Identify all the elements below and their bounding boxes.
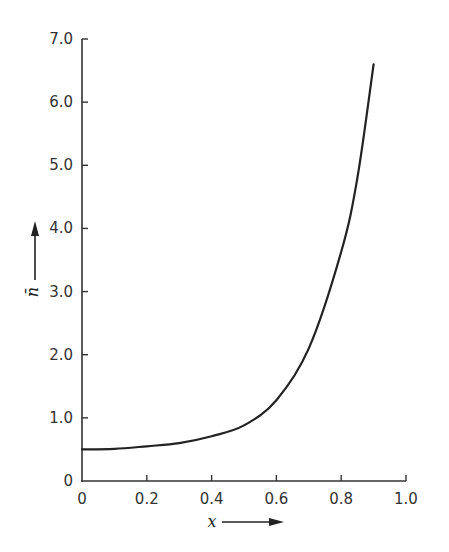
y-tick-label: 2.0 xyxy=(49,346,73,364)
x-tick-label: 0.8 xyxy=(329,490,353,508)
x-axis-label: x xyxy=(207,512,284,531)
y-axis: 01.02.03.04.05.06.07.0 xyxy=(49,30,88,490)
y-axis-label-text: n̄ xyxy=(23,287,42,297)
x-ticks: 00.20.40.60.81.0 xyxy=(77,475,418,508)
y-tick-label: 5.0 xyxy=(49,156,73,174)
x-tick-label: 1.0 xyxy=(394,490,418,508)
x-axis: 00.20.40.60.81.0 xyxy=(77,475,418,508)
y-axis-label: n̄ xyxy=(23,221,42,297)
y-tick-label: 4.0 xyxy=(49,219,73,237)
y-tick-label: 7.0 xyxy=(49,30,73,48)
x-tick-label: 0.6 xyxy=(264,490,288,508)
x-tick-label: 0.4 xyxy=(200,490,224,508)
chart: 01.02.03.04.05.06.07.0 00.20.40.60.81.0 … xyxy=(0,0,449,552)
x-tick-label: 0.2 xyxy=(135,490,159,508)
x-tick-label: 0 xyxy=(77,490,87,508)
x-axis-label-text: x xyxy=(207,512,216,531)
y-tick-label: 1.0 xyxy=(49,409,73,427)
data-line xyxy=(82,64,374,449)
up-arrow-head-icon xyxy=(31,221,39,236)
y-tick-label: 3.0 xyxy=(49,283,73,301)
right-arrow-head-icon xyxy=(269,518,284,526)
y-tick-label: 0 xyxy=(63,472,73,490)
y-tick-label: 6.0 xyxy=(49,93,73,111)
